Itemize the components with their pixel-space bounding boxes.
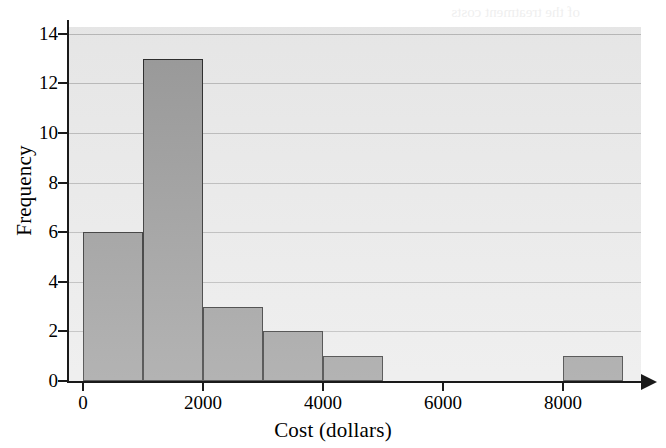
x-axis-tick-label: 0 (78, 392, 88, 414)
x-axis-tick-label: 6000 (424, 392, 462, 414)
histogram-bar (83, 232, 143, 381)
x-axis-tick-label: 2000 (184, 392, 222, 414)
plot-area (68, 27, 641, 382)
histogram-bar (563, 356, 623, 381)
x-axis-arrow-icon (641, 374, 657, 390)
ghost-bleedthrough-top: of the treatment costs (120, 4, 580, 24)
x-axis-tick (202, 381, 204, 391)
x-axis-tick-label: 8000 (544, 392, 582, 414)
histogram-bar (203, 307, 263, 381)
x-axis-tick (442, 381, 444, 391)
x-axis-tick (562, 381, 564, 391)
x-axis-title: Cost (dollars) (0, 418, 666, 443)
y-axis-tick-label: 12 (0, 72, 70, 94)
y-axis-tick-label: 14 (0, 23, 70, 45)
histogram-bar (143, 59, 203, 381)
histogram-bar (263, 331, 323, 381)
histogram-figure: of the treatment costs a few months this… (0, 0, 666, 448)
gridline (68, 34, 641, 35)
y-axis-tick-label: 4 (0, 271, 70, 293)
x-axis-tick (82, 381, 84, 391)
x-axis-line (68, 381, 646, 383)
x-axis-tick (322, 381, 324, 391)
y-axis-tick-label: 2 (0, 320, 70, 342)
y-axis-title: Frequency (12, 131, 37, 251)
y-axis-tick-label: 0 (0, 370, 70, 392)
x-axis-tick-label: 4000 (304, 392, 342, 414)
histogram-bar (323, 356, 383, 381)
